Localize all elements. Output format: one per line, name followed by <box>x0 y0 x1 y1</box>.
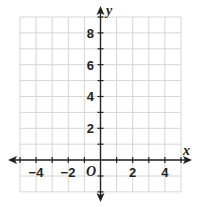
y-tick-label: 6 <box>87 58 94 73</box>
y-tick-label: 4 <box>87 89 95 104</box>
x-tick-label: −2 <box>61 165 76 180</box>
x-axis-label: x <box>182 143 190 158</box>
y-tick-label: 2 <box>87 121 94 136</box>
origin-label: O <box>86 164 96 179</box>
coordinate-plane: x y O −4 −2 2 4 2 4 6 8 <box>0 0 202 207</box>
y-tick-label: 8 <box>87 26 94 41</box>
y-axis-label: y <box>104 3 113 18</box>
x-tick-label: 4 <box>161 165 169 180</box>
x-tick-label: −4 <box>29 165 45 180</box>
x-tick-label: 2 <box>129 165 136 180</box>
